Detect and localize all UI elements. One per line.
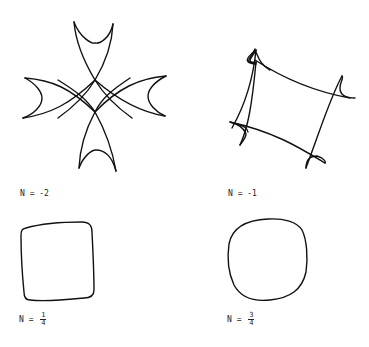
label-prefix: N =: [20, 189, 39, 198]
curve-n-minus-2: [23, 22, 166, 171]
fraction: 14: [40, 312, 46, 327]
label-n-three-quarters: N = 34: [227, 312, 254, 327]
label-n-minus-1: N = -1: [228, 189, 257, 198]
label-n-one-quarter: N = 14: [19, 312, 46, 327]
label-value: -1: [247, 189, 257, 198]
curve-n-minus-1: [230, 49, 355, 168]
label-value: -2: [39, 189, 49, 198]
label-n-minus-2: N = -2: [20, 189, 49, 198]
figure-canvas: [0, 0, 369, 347]
curve-n-one-quarter: [21, 222, 94, 301]
fraction-denominator: 4: [41, 320, 45, 327]
label-prefix: N =: [227, 315, 246, 324]
label-prefix: N =: [19, 315, 38, 324]
label-prefix: N =: [228, 189, 247, 198]
fraction: 34: [248, 312, 254, 327]
fraction-denominator: 4: [249, 320, 253, 327]
curve-n-three-quarters: [228, 219, 307, 301]
